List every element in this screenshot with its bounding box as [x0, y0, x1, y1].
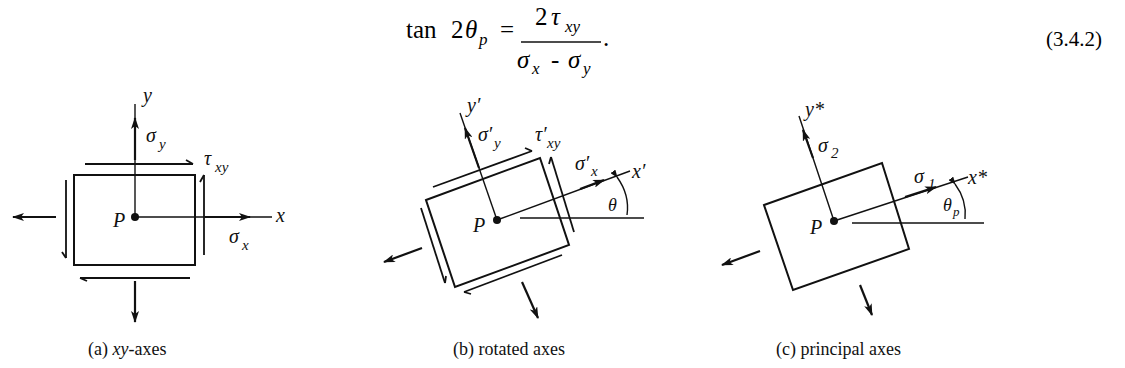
point-p-dot — [830, 217, 838, 225]
shear-bottom — [464, 255, 562, 292]
panel-a-labels: y σ y τ xy P x σ x — [112, 84, 285, 253]
eq-tan: tan — [406, 16, 437, 43]
label-sigma-x-prime: σ′ — [575, 152, 590, 174]
eq-tau: τ — [551, 3, 561, 30]
label-x: x — [275, 204, 285, 226]
sigma-x-prime-arrow — [580, 180, 604, 189]
label-p: P — [112, 209, 125, 231]
point-p-dot — [493, 216, 501, 224]
panel-b-rotated-axes — [384, 113, 644, 318]
shear-right — [551, 157, 574, 232]
sigma-left-arrow — [722, 251, 760, 265]
shear-top — [433, 151, 532, 187]
label-tau-xy-sub: xy — [214, 159, 229, 175]
sigma-bottom-arrow — [522, 282, 538, 318]
eq-lhs-coef: 2 — [451, 16, 464, 43]
shear-left-hook — [445, 276, 446, 283]
label-p: P — [472, 214, 485, 236]
label-sigma-y-sub: y — [157, 136, 166, 152]
label-sigma-1: σ — [914, 165, 925, 187]
eq-sigma-y-sub: y — [581, 59, 591, 78]
label-sigma-y-prime: σ′ — [478, 123, 493, 145]
point-p-dot — [131, 213, 139, 221]
label-sigma-1-sub: 1 — [928, 176, 936, 192]
label-tau-xy-prime: τ′ — [535, 123, 547, 145]
label-theta-p-sub: p — [952, 204, 960, 219]
label-sigma-x: σ — [229, 225, 240, 247]
stress-transformation-figure: tan 2 θ p = 2 τ xy σ x - σ y . (3.4.2) — [0, 0, 1125, 368]
eq-minus: - — [551, 46, 559, 73]
panel-a-xy-axes — [13, 104, 272, 322]
eq-num-coef: 2 — [535, 3, 548, 30]
sigma-y-prime-arrow — [465, 128, 479, 168]
theta-arc — [617, 177, 628, 215]
equation-number: (3.4.2) — [1046, 27, 1102, 51]
sigma-2-arrow — [803, 130, 813, 158]
label-p: P — [809, 216, 822, 238]
eq-sigma-x-sub: x — [531, 59, 540, 78]
label-sigma-2-sub: 2 — [831, 145, 839, 161]
label-sigma-2: σ — [818, 134, 829, 156]
eq-tau-sub: xy — [564, 17, 581, 36]
eq-equals: = — [500, 16, 514, 43]
label-theta-p: θ — [943, 195, 952, 215]
label-x-star: x* — [967, 166, 987, 188]
eq-period: . — [603, 24, 609, 51]
label-x-prime: x′ — [631, 160, 646, 182]
label-tau-xy-prime-sub: xy — [546, 135, 561, 151]
sigma-left-arrow — [384, 248, 422, 262]
caption-b: (b) rotated axes — [453, 339, 565, 360]
sigma-bottom-arrow — [860, 285, 872, 315]
label-y-star: y* — [803, 98, 824, 121]
eq-sigma-x: σ — [517, 46, 531, 73]
label-tau-xy: τ — [204, 147, 212, 169]
label-theta: θ — [608, 195, 617, 215]
shear-bottom-hook — [464, 292, 471, 294]
eq-theta: θ — [465, 16, 477, 43]
caption-a: (a) xy-axes — [88, 339, 166, 360]
label-sigma-y-prime-sub: y — [492, 135, 501, 151]
eq-sigma-y: σ — [568, 46, 582, 73]
label-y: y — [141, 84, 152, 107]
equation-3-4-2: tan 2 θ p = 2 τ xy σ x - σ y . (3.4.2) — [406, 3, 1102, 78]
panel-c-principal-axes — [722, 116, 984, 315]
label-sigma-x-sub: x — [241, 237, 249, 253]
label-sigma-x-prime-sub: x — [590, 163, 598, 179]
label-sigma-y: σ — [146, 124, 157, 146]
panel-c-labels: y* σ 2 σ 1 x* θ p P — [803, 98, 987, 238]
label-y-prime: y′ — [465, 94, 481, 117]
caption-c: (c) principal axes — [776, 339, 901, 360]
principal-element — [764, 163, 909, 290]
shear-top-hook — [525, 148, 532, 151]
eq-theta-sub: p — [478, 30, 488, 49]
shear-right-hook — [549, 157, 551, 164]
